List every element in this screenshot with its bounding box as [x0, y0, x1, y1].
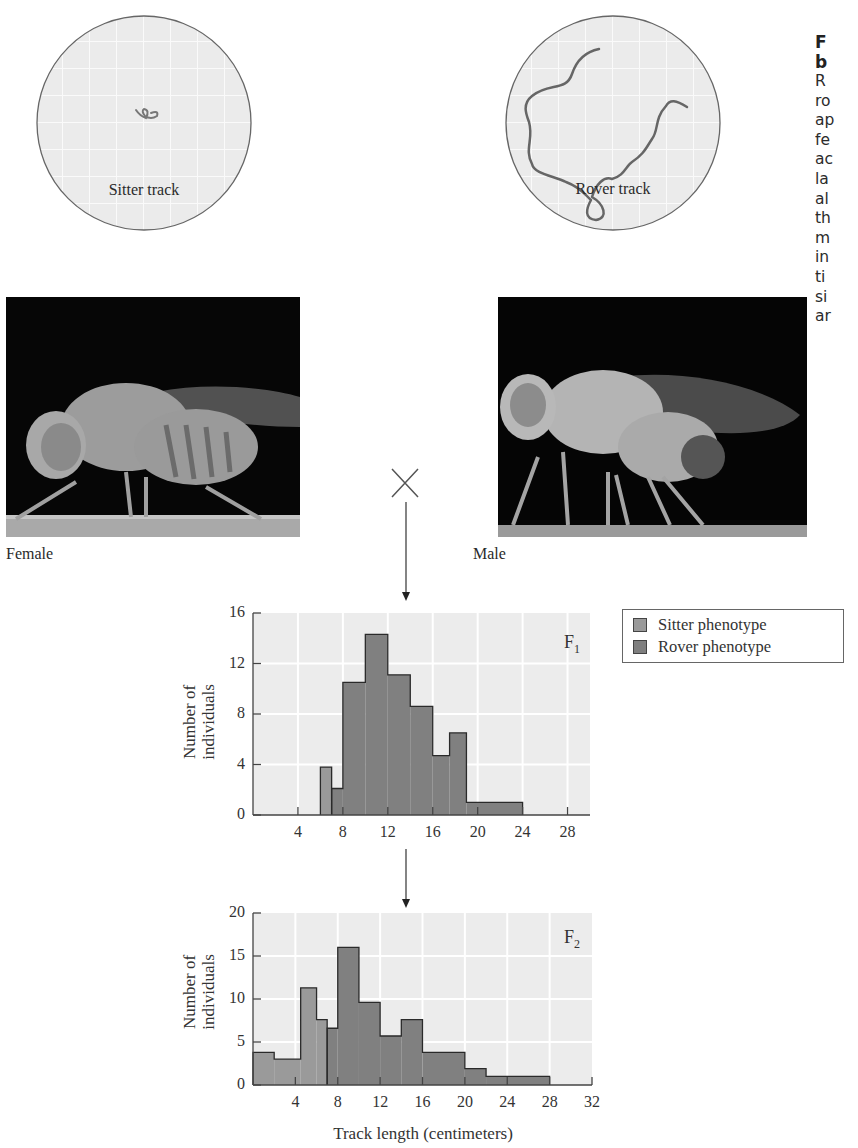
y-tick-label: 0: [213, 1075, 245, 1093]
y-tick-label: 8: [213, 704, 245, 722]
generation-subscript: 2: [574, 937, 580, 951]
y-tick-label: 10: [213, 989, 245, 1007]
generation-subscript: 1: [574, 642, 580, 656]
f1-generation-label: F1: [564, 632, 580, 657]
x-tick-label: 20: [462, 823, 494, 841]
y-axis-title-line: Number of: [180, 922, 199, 1062]
x-tick-label: 8: [327, 823, 359, 841]
histogram-bar: [359, 1002, 380, 1085]
y-tick-label: 0: [213, 805, 245, 823]
histogram-bar: [301, 988, 317, 1085]
histogram-bar: [338, 947, 359, 1085]
histogram-bar: [320, 767, 331, 815]
x-tick-label: 28: [552, 823, 584, 841]
x-tick-label: 28: [534, 1093, 566, 1111]
histogram-bar: [380, 1036, 401, 1085]
y-tick-label: 5: [213, 1032, 245, 1050]
x-tick-label: 20: [449, 1093, 481, 1111]
y-tick-label: 20: [213, 903, 245, 921]
x-tick-label: 24: [507, 823, 539, 841]
histogram-bar: [274, 1059, 300, 1085]
x-tick-label: 4: [279, 1093, 311, 1111]
x-tick-label: 16: [407, 1093, 439, 1111]
histogram-bar: [327, 1028, 338, 1085]
histogram-bar: [433, 756, 450, 815]
x-tick-label: 32: [576, 1093, 608, 1111]
histogram-bar: [450, 733, 467, 815]
f2-generation-label: F2: [564, 927, 580, 952]
histogram-bar: [332, 788, 343, 815]
histogram-bar: [401, 1020, 422, 1085]
histogram-bar: [410, 706, 432, 815]
x-tick-label: 12: [364, 1093, 396, 1111]
histogram-bar: [365, 634, 387, 815]
y-tick-label: 15: [213, 946, 245, 964]
histogram-bar: [423, 1052, 465, 1085]
histogram-bar: [343, 682, 365, 815]
y-tick-label: 4: [213, 755, 245, 773]
histogram-bar: [486, 1076, 550, 1085]
y-tick-label: 16: [213, 603, 245, 621]
histogram-bar: [465, 1069, 486, 1085]
histogram-bar: [317, 1020, 328, 1085]
x-tick-label: 8: [322, 1093, 354, 1111]
x-tick-label: 24: [491, 1093, 523, 1111]
generation-letter: F: [564, 927, 574, 947]
y-tick-label: 12: [213, 654, 245, 672]
x-tick-label: 16: [417, 823, 449, 841]
f2-x-axis-title: Track length (centimeters): [253, 1124, 593, 1144]
f1-plot: [0, 0, 858, 1148]
histogram-bar: [388, 675, 410, 815]
generation-letter: F: [564, 632, 574, 652]
x-tick-label: 4: [282, 823, 314, 841]
histogram-bar: [253, 1052, 274, 1085]
x-tick-label: 12: [372, 823, 404, 841]
histogram-bar: [466, 802, 522, 815]
